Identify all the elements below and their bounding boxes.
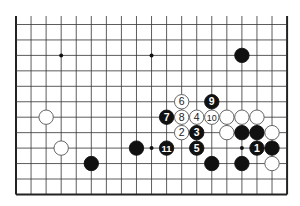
move-number: 5 — [194, 142, 200, 154]
white-stone — [250, 110, 264, 124]
black-stone — [250, 125, 264, 139]
white-stone — [235, 110, 249, 124]
black-stone — [265, 141, 279, 155]
black-stone — [235, 125, 249, 139]
white-stone — [220, 125, 234, 139]
go-board: 1176841092351 — [0, 0, 300, 206]
black-stone: 5 — [190, 141, 204, 155]
move-number: 9 — [209, 95, 215, 107]
white-stone — [220, 110, 234, 124]
move-number: 8 — [179, 111, 185, 123]
white-stone: 10 — [205, 110, 219, 124]
move-number: 2 — [179, 126, 185, 138]
black-stone: 9 — [205, 95, 219, 109]
black-stone — [205, 156, 219, 170]
stones-layer: 1176841092351 — [39, 48, 279, 171]
star-point — [59, 53, 63, 57]
black-stone — [129, 141, 143, 155]
black-stone — [84, 156, 98, 170]
black-stone: 7 — [159, 110, 173, 124]
white-stone — [265, 156, 279, 170]
star-point — [240, 146, 244, 150]
black-stone: 3 — [190, 125, 204, 139]
white-stone: 8 — [174, 110, 188, 124]
star-point — [150, 146, 154, 150]
white-stone — [39, 110, 53, 124]
white-stone: 4 — [190, 110, 204, 124]
black-stone: 11 — [159, 141, 173, 155]
move-number: 11 — [162, 144, 172, 154]
black-stone — [235, 156, 249, 170]
move-number: 6 — [179, 95, 185, 107]
white-stone — [265, 125, 279, 139]
black-stone — [235, 48, 249, 62]
move-number: 3 — [194, 126, 200, 138]
black-stone: 1 — [250, 141, 264, 155]
move-number: 7 — [164, 111, 170, 123]
white-stone: 2 — [174, 125, 188, 139]
white-stone — [54, 141, 68, 155]
move-number: 10 — [207, 113, 217, 123]
move-number: 4 — [194, 111, 200, 123]
white-stone: 6 — [174, 95, 188, 109]
star-point — [150, 53, 154, 57]
move-number: 1 — [254, 142, 260, 154]
